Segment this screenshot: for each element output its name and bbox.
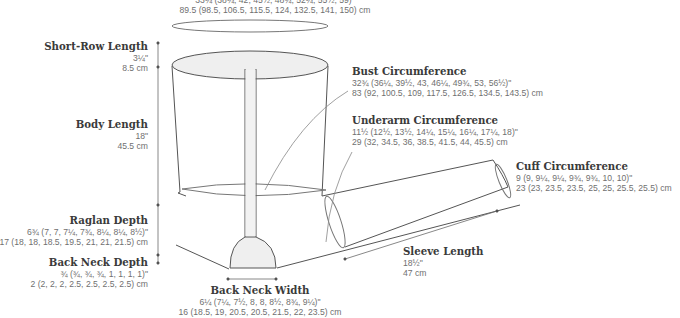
sleeve-bottom	[345, 187, 508, 247]
short-row-length-imperial: 3¼"	[44, 53, 148, 63]
sleeve-length-metric: 47 cm	[403, 268, 483, 278]
sleeve-length-imperial: 18½"	[403, 258, 483, 268]
back-neck	[230, 237, 276, 268]
cuff-circumference-metric: 23 (23, 23.5, 23.5, 25, 25, 25.5, 25.5) …	[516, 183, 672, 193]
sleeve-underarm-ellipse	[321, 194, 349, 249]
back-neck-width-label: Back Neck Width 6¼ (7¼, 7½, 8, 8, 8½, 8¾…	[150, 284, 370, 317]
raglan-depth-imperial: 6¾ (7, 7, 7¼, 7¾, 8¼, 8¼, 8½)"	[0, 227, 148, 237]
sleeve-length-title: Sleeve Length	[403, 245, 483, 258]
sleeve-end	[493, 160, 508, 187]
short-row-length-label: Short-Row Length 3¼" 8.5 cm	[44, 40, 148, 73]
cuff-ellipse	[493, 163, 514, 199]
underarm-leader	[326, 152, 352, 242]
cuff-circumference-imperial: 9 (9, 9¼, 9¼, 9¾, 9¾, 10, 10)"	[516, 173, 672, 183]
short-row-length-title: Short-Row Length	[44, 40, 148, 53]
back-neck-depth-metric: 2 (2, 2, 2, 2.5, 2.5, 2.5, 2.5) cm	[30, 279, 148, 289]
body-length-imperial: 18"	[76, 131, 148, 141]
short-row-length-metric: 8.5 cm	[44, 63, 148, 73]
back-neck-width-metric: 16 (18.5, 19, 20.5, 20.5, 21.5, 22, 23.5…	[150, 307, 370, 317]
body-left-side	[172, 66, 186, 196]
raglan-depth-label: Raglan Depth 6¾ (7, 7, 7¼, 7¾, 8¼, 8¼, 8…	[0, 214, 148, 247]
bust-leader	[265, 91, 348, 190]
sleeve-top	[322, 160, 493, 196]
raglan-left	[176, 245, 229, 269]
bust-circumference-imperial: 32¾ (36¼, 39½, 43, 46¼, 49¾, 53, 56½)"	[352, 78, 543, 88]
body-right-side	[322, 66, 328, 196]
raglan-right	[277, 205, 520, 268]
underarm-circumference-title: Underarm Circumference	[352, 114, 518, 127]
raglan-depth-title: Raglan Depth	[0, 214, 148, 227]
bust-circumference-title: Bust Circumference	[352, 65, 543, 78]
bust-circumference-label: Bust Circumference 32¾ (36¼, 39½, 43, 46…	[352, 65, 543, 98]
bust-circumference-metric: 83 (92, 100.5, 109, 117.5, 126.5, 134.5,…	[352, 88, 543, 98]
body-length-label: Body Length 18" 45.5 cm	[76, 118, 148, 151]
cuff-circumference-label: Cuff Circumference 9 (9, 9¼, 9¼, 9¾, 9¾,…	[516, 160, 672, 193]
underarm-circumference-imperial: 11½ (12½, 13½, 14¼, 15¼, 16¼, 17¼, 18)"	[352, 127, 518, 137]
back-neck-width-title: Back Neck Width	[150, 284, 370, 297]
back-neck-depth-imperial: ¾ (¾, ¾, ¾, 1, 1, 1, 1)"	[30, 269, 148, 279]
back-neck-depth-label: Back Neck Depth ¾ (¾, ¾, ¾, 1, 1, 1, 1)"…	[30, 256, 148, 289]
body-length-metric: 45.5 cm	[76, 141, 148, 151]
underarm-circumference-metric: 29 (32, 34.5, 36, 38.5, 41.5, 44, 45.5) …	[352, 137, 518, 147]
body-length-title: Body Length	[76, 118, 148, 131]
cuff-circumference-title: Cuff Circumference	[516, 160, 672, 173]
sleeve-length-label: Sleeve Length 18½" 47 cm	[403, 245, 483, 278]
top-circumference-label: 33¼ (38¼, 42, 45½, 48¾, 52¼, 55½, 59)" 8…	[150, 0, 400, 16]
back-neck-width-imperial: 6¼ (7¼, 7½, 8, 8, 8½, 8¾, 9¼)"	[150, 297, 370, 307]
top-metric: 89.5 (98.5, 106.5, 115.5, 124, 132.5, 14…	[150, 5, 400, 15]
back-neck-depth-title: Back Neck Depth	[30, 256, 148, 269]
hem-ellipse	[172, 20, 328, 32]
underarm-circumference-label: Underarm Circumference 11½ (12½, 13½, 14…	[352, 114, 518, 147]
raglan-depth-metric: 17 (18, 18, 18.5, 19.5, 21, 21, 21.5) cm	[0, 237, 148, 247]
